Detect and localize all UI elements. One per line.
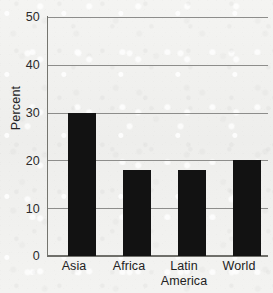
x-tick-label-africa-line1: Africa <box>113 259 146 273</box>
y-tick-label-20: 20 <box>6 155 40 168</box>
bar-africa <box>123 170 151 256</box>
gridline-50 <box>48 17 268 18</box>
bar-world <box>233 160 261 256</box>
y-tick-label-30: 30 <box>6 107 40 120</box>
y-tick-label-0: 0 <box>6 250 40 263</box>
x-tick-label-latin-america-line1: Latin <box>170 259 198 273</box>
bar-latin-america <box>178 170 206 256</box>
gridline-40 <box>48 65 268 66</box>
x-tick-label-latin-america-line2: America <box>150 274 218 289</box>
x-tick-label-world-line1: World <box>223 259 256 273</box>
y-tick-label-10: 10 <box>6 203 40 216</box>
bar-chart-figure: Percent 50 40 30 20 10 0 Asia Africa Lat… <box>0 0 273 293</box>
y-tick-label-40: 40 <box>6 59 40 72</box>
plot-area <box>48 17 268 256</box>
y-tick-label-50: 50 <box>6 11 40 24</box>
bar-asia <box>68 113 96 256</box>
x-tick-label-world: World <box>205 259 273 274</box>
x-tick-label-asia-line1: Asia <box>62 259 87 273</box>
